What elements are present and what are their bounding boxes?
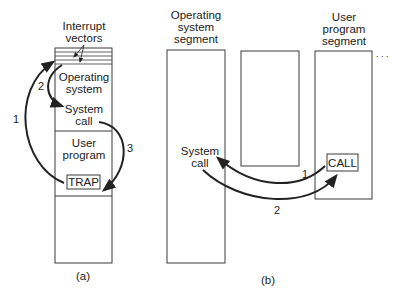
user-segment-label-2: program	[323, 23, 366, 35]
figure-a: Interrupt vectors Operating system Syste…	[13, 20, 133, 282]
arrow-1-call-to-syscall	[218, 158, 325, 183]
system-call-label-2: call	[75, 115, 92, 127]
os-segment-label-2: system	[178, 21, 214, 33]
arrow-2-return-to-caller	[203, 170, 336, 199]
system-call-label-1: System	[181, 145, 219, 157]
system-call-label-1: System	[65, 103, 103, 115]
arrow-1-label: 1	[302, 168, 308, 180]
os-segment-label-3: segment	[174, 33, 219, 45]
system-call-label-2: call	[191, 157, 208, 169]
interrupt-vectors-label-2: vectors	[65, 32, 102, 44]
user-segment-label-3: segment	[322, 35, 367, 47]
arrow-2-label: 2	[274, 204, 280, 216]
os-label-2: system	[66, 83, 102, 95]
arrow-3-label: 3	[127, 142, 133, 154]
call-label: CALL	[328, 157, 357, 169]
system-call-diagram: Interrupt vectors Operating system Syste…	[0, 0, 397, 297]
middle-segment-box	[241, 51, 299, 166]
user-program-label-2: program	[63, 149, 106, 161]
os-segment-label-1: Operating	[171, 9, 222, 21]
user-segment-box	[315, 51, 372, 199]
interrupt-vectors-label-1: Interrupt	[63, 20, 107, 32]
arrow-1-label: 1	[13, 113, 19, 125]
os-label-1: Operating	[59, 71, 110, 83]
more-segments-ellipsis: . . .	[376, 49, 389, 59]
trap-label: TRAP	[68, 176, 99, 188]
arrow-2-label: 2	[38, 80, 44, 92]
user-program-label-1: User	[72, 137, 96, 149]
caption-b: (b)	[261, 274, 275, 286]
caption-a: (a)	[76, 270, 90, 282]
figure-b: Operating system segment User program se…	[167, 9, 389, 286]
user-segment-label-1: User	[332, 11, 356, 23]
